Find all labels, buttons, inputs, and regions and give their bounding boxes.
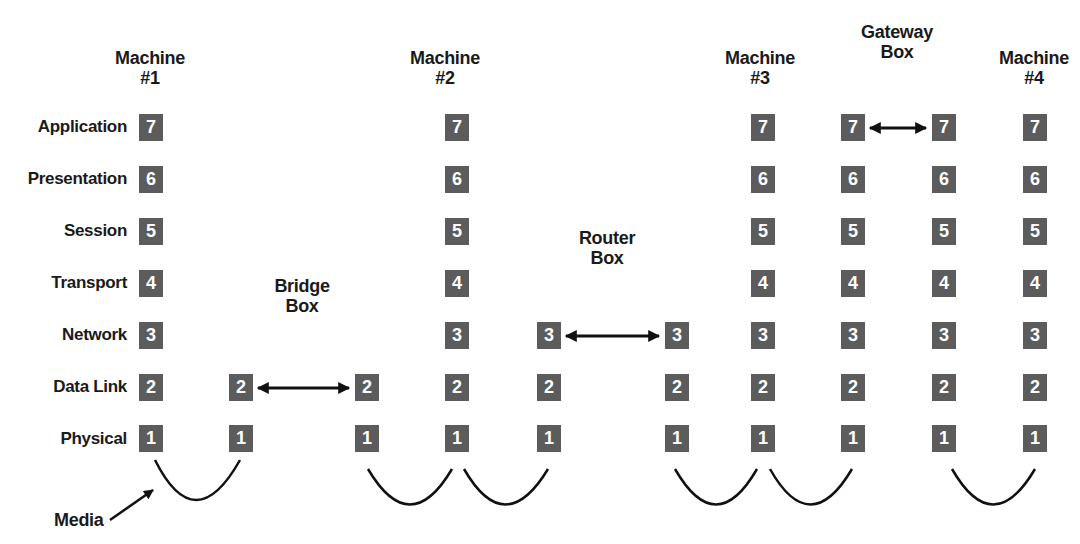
media-curve-icon xyxy=(368,469,452,505)
media-curve-icon xyxy=(952,469,1035,505)
osi-diagram: Machine #1 Machine #2 Machine #3 Machine… xyxy=(0,0,1080,544)
media-curves xyxy=(155,460,1035,505)
media-pointer-arrow-icon xyxy=(110,490,153,520)
connections-overlay xyxy=(0,0,1080,544)
media-curve-icon xyxy=(675,469,757,505)
media-curve-icon xyxy=(770,469,852,505)
media-curve-icon xyxy=(464,469,548,505)
media-curve-icon xyxy=(155,460,240,500)
